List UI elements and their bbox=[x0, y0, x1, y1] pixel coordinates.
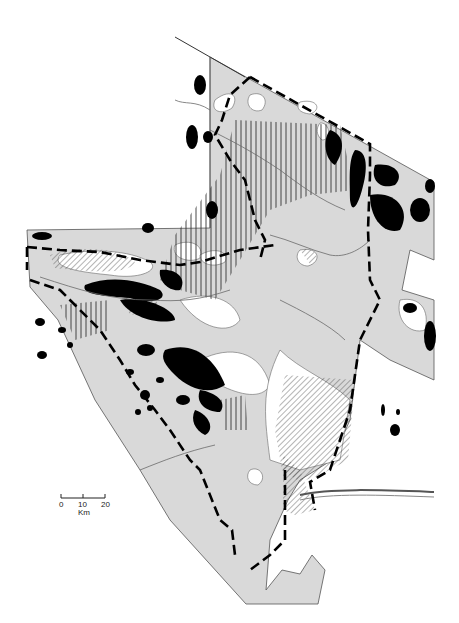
scale-tick-20: 20 bbox=[101, 500, 110, 509]
scale-bar: 0 10 20 Km bbox=[59, 494, 110, 517]
scale-tick-0: 0 bbox=[59, 500, 64, 509]
vertical-hatch-area bbox=[220, 395, 248, 430]
map-canvas: 0 10 20 Km bbox=[0, 0, 459, 623]
scale-unit: Km bbox=[78, 508, 90, 517]
